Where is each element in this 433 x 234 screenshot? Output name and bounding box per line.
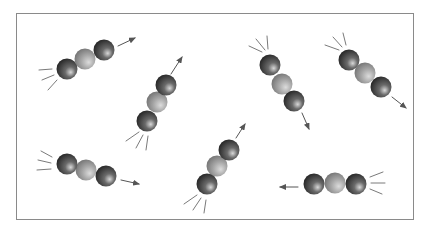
motion-line bbox=[48, 80, 57, 90]
outer-atom bbox=[371, 77, 392, 98]
outer-atom bbox=[219, 140, 240, 161]
outer-atom bbox=[346, 174, 367, 195]
outer-atom bbox=[57, 59, 78, 80]
motion-line bbox=[38, 160, 51, 163]
motion-line bbox=[249, 46, 262, 52]
molecule-1 bbox=[39, 38, 135, 90]
center-atom bbox=[76, 160, 97, 181]
outer-atom bbox=[304, 174, 325, 195]
molecules-illustration bbox=[0, 0, 433, 234]
motion-line bbox=[325, 45, 339, 50]
motion-line bbox=[184, 195, 197, 204]
direction-arrow-icon bbox=[121, 180, 139, 184]
motion-line bbox=[39, 69, 52, 70]
outer-atom bbox=[284, 91, 305, 112]
motion-line bbox=[370, 189, 382, 194]
motion-line bbox=[146, 136, 148, 150]
center-atom bbox=[272, 74, 293, 95]
direction-arrow-icon bbox=[392, 97, 406, 108]
outer-atom bbox=[94, 40, 115, 61]
molecule-7 bbox=[280, 172, 385, 195]
motion-line bbox=[256, 39, 265, 50]
molecule-6 bbox=[184, 124, 245, 213]
direction-arrow-icon bbox=[118, 38, 135, 46]
center-atom bbox=[75, 49, 96, 70]
motion-line bbox=[37, 169, 51, 170]
outer-atom bbox=[260, 55, 281, 76]
direction-arrow-icon bbox=[236, 124, 245, 138]
outer-atom bbox=[197, 174, 218, 195]
outer-atom bbox=[339, 50, 360, 71]
motion-line bbox=[333, 37, 342, 47]
molecule-layer bbox=[37, 33, 406, 213]
molecule-5 bbox=[37, 151, 139, 187]
outer-atom bbox=[96, 166, 117, 187]
motion-line bbox=[41, 151, 52, 157]
motion-line bbox=[343, 33, 346, 45]
molecule-3 bbox=[249, 36, 309, 129]
center-atom bbox=[325, 173, 346, 194]
motion-line bbox=[370, 172, 383, 177]
direction-arrow-icon bbox=[302, 113, 309, 129]
outer-atom bbox=[156, 75, 177, 96]
molecule-2 bbox=[126, 57, 182, 150]
figure bbox=[0, 0, 433, 234]
motion-line bbox=[204, 200, 206, 213]
motion-line bbox=[136, 135, 143, 148]
outer-atom bbox=[137, 111, 158, 132]
direction-arrow-icon bbox=[171, 57, 182, 74]
motion-line bbox=[42, 75, 54, 80]
molecule-4 bbox=[325, 33, 406, 108]
motion-line bbox=[193, 198, 201, 210]
outer-atom bbox=[57, 154, 78, 175]
motion-line bbox=[267, 36, 268, 49]
motion-line bbox=[126, 132, 139, 141]
